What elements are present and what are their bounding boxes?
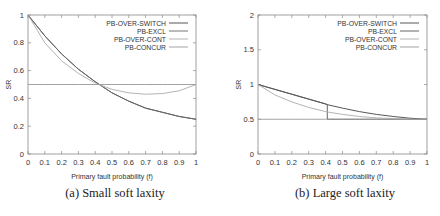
- x-tick-label: 0.6: [124, 158, 134, 167]
- x-tick-label: 0.1: [270, 158, 280, 167]
- x-tick-label: 0.3: [73, 158, 83, 167]
- y-tick-label: 1: [250, 80, 254, 89]
- x-tick-label: 0.4: [90, 158, 100, 167]
- x-tick-label: 0.4: [320, 158, 330, 167]
- legend-label: PB-OVER-SWITCH: [106, 20, 166, 27]
- x-tick-label: 1: [425, 158, 429, 167]
- figure: 00.10.20.30.40.50.60.70.80.9100.20.40.60…: [0, 0, 440, 216]
- y-axis-label: SR: [235, 80, 242, 90]
- x-tick-label: 0: [26, 158, 30, 167]
- y-tick-label: 0: [20, 150, 24, 159]
- caption-a: (a) Small soft laxity: [5, 186, 225, 201]
- y-tick-label: 1: [20, 11, 24, 20]
- x-tick-label: 1: [194, 158, 198, 167]
- x-tick-label: 0.9: [174, 158, 184, 167]
- y-tick-label: 2: [250, 11, 254, 20]
- x-tick-label: 0.3: [303, 158, 313, 167]
- series-line-pb-over-cont: [258, 85, 427, 120]
- x-tick-label: 0.2: [287, 158, 297, 167]
- chart-panel-a: 00.10.20.30.40.50.60.70.80.9100.20.40.60…: [5, 11, 198, 182]
- y-tick-label: 1.5: [244, 45, 254, 54]
- y-tick-label: 0.2: [14, 122, 24, 131]
- x-axis-label: Primary fault probability (f): [302, 173, 384, 181]
- x-tick-label: 0.8: [157, 158, 167, 167]
- y-axis-label: SR: [5, 80, 12, 90]
- x-tick-label: 0.7: [371, 158, 381, 167]
- x-tick-label: 0.1: [40, 158, 50, 167]
- y-tick-label: 0.4: [14, 94, 24, 103]
- legend-label: PB-OVER-CONT: [114, 36, 166, 43]
- y-tick-label: 0: [250, 150, 254, 159]
- plot-frame: [258, 15, 427, 154]
- x-tick-label: 0.5: [107, 158, 117, 167]
- x-tick-label: 0.6: [354, 158, 364, 167]
- x-tick-label: 0.8: [388, 158, 398, 167]
- x-tick-label: 0.9: [405, 158, 415, 167]
- chart-panel-b: 00.10.20.30.40.50.60.70.80.9100.511.52Pr…: [235, 11, 429, 182]
- legend-label: PB-OVER-CONT: [345, 36, 397, 43]
- x-axis-label: Primary fault probability (f): [71, 173, 153, 181]
- x-tick-label: 0.2: [56, 158, 66, 167]
- legend-label: PB-CONCUR: [125, 44, 166, 51]
- legend-label: PB-EXCL: [137, 28, 166, 35]
- legend-label: PB-CONCUR: [356, 44, 397, 51]
- series-line-pb-over-cont: [28, 15, 196, 94]
- x-tick-label: 0.7: [140, 158, 150, 167]
- x-tick-label: 0.5: [337, 158, 347, 167]
- legend-label: PB-EXCL: [368, 28, 397, 35]
- x-tick-label: 0: [256, 158, 260, 167]
- y-tick-label: 0.6: [14, 66, 24, 75]
- y-tick-label: 0.8: [14, 38, 24, 47]
- legend-label: PB-OVER-SWITCH: [337, 20, 397, 27]
- y-tick-label: 0.5: [244, 115, 254, 124]
- caption-b: (b) Large soft laxity: [235, 186, 440, 201]
